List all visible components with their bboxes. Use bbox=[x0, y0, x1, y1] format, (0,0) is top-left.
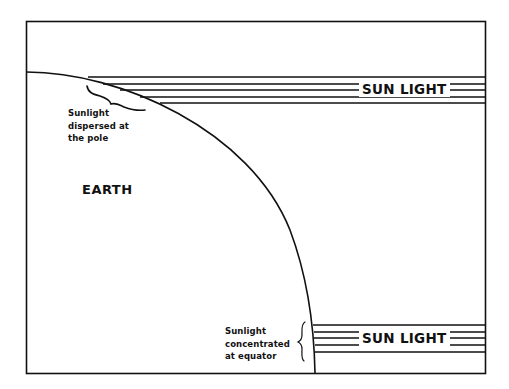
equator-annotation-line1: Sunlight bbox=[225, 325, 290, 338]
equator-annotation-line3: at equator bbox=[225, 350, 290, 363]
diagram-frame bbox=[27, 22, 486, 374]
pole-annotation-line1: Sunlight bbox=[68, 107, 129, 120]
pole-annotation-line3: the pole bbox=[68, 132, 129, 145]
earth-label: EARTH bbox=[82, 182, 133, 197]
sunlight-label-top: SUN LIGHT bbox=[359, 81, 450, 97]
equator-annotation-line2: concentrated bbox=[225, 338, 290, 351]
pole-annotation-line2: dispersed at bbox=[68, 120, 129, 133]
sunlight-label-bottom: SUN LIGHT bbox=[359, 330, 450, 346]
brace-equator-icon bbox=[298, 322, 305, 361]
pole-annotation: Sunlight dispersed at the pole bbox=[68, 107, 129, 145]
equator-annotation: Sunlight concentrated at equator bbox=[225, 325, 290, 363]
